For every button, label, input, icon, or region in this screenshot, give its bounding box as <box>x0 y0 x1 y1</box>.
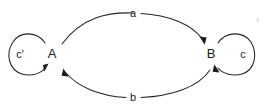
node-b-label: B <box>207 46 216 61</box>
self-loop-c-path <box>218 34 255 75</box>
edge-a-path-right-segment <box>141 14 203 41</box>
self-loop-c-label: c <box>240 48 246 60</box>
edge-b-group: b <box>62 69 210 103</box>
edge-a-path-left-segment <box>62 13 133 44</box>
edge-b-arrowhead <box>62 69 69 77</box>
edge-b-path-right-segment <box>141 70 210 98</box>
edge-b-path-left-segment <box>66 73 126 98</box>
edge-a-label: a <box>130 7 137 19</box>
scan-speck <box>257 18 259 22</box>
edge-b-label: b <box>130 91 136 103</box>
node-a-label: A <box>48 46 57 61</box>
edge-a-group: a <box>62 7 207 44</box>
diagram-svg: a b c' c A B <box>0 0 266 112</box>
edge-a-arrowhead <box>200 37 207 45</box>
self-loop-c-group: c <box>213 34 255 75</box>
self-loop-c-prime-path <box>9 34 46 75</box>
self-loop-c-prime-group: c' <box>9 34 49 75</box>
diagram-canvas: a b c' c A B <box>0 0 266 112</box>
self-loop-c-prime-label: c' <box>16 48 24 60</box>
self-loop-c-prime-arrowhead <box>43 63 49 71</box>
